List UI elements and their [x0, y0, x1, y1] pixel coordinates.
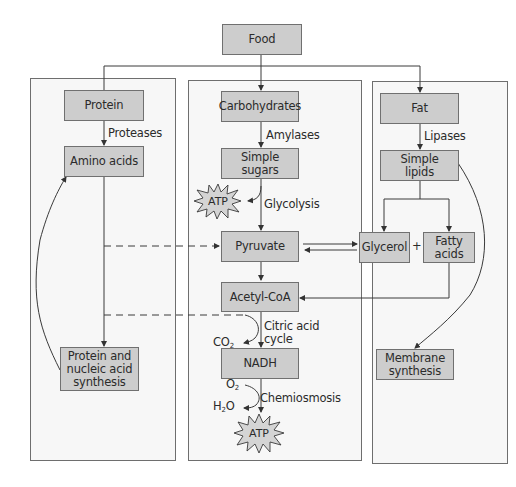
- pyruvate-node: Pyruvate: [221, 231, 299, 262]
- atp-label-top: ATP: [193, 182, 243, 220]
- glycolysis-label: Glycolysis: [264, 198, 319, 211]
- atp-label-bottom: ATP: [233, 412, 285, 454]
- amylases-label: Amylases: [266, 129, 320, 142]
- co2-text: CO: [213, 335, 230, 349]
- o2-subscript: 2: [235, 384, 239, 392]
- lipases-label: Lipases: [424, 130, 466, 143]
- carbohydrates-node: Carbohydrates: [221, 91, 299, 122]
- amino-acids-node: Amino acids: [64, 146, 144, 177]
- glycerol-node: Glycerol: [359, 232, 410, 263]
- fat-node: Fat: [380, 93, 459, 124]
- food-node: Food: [222, 24, 302, 55]
- h2o-o: O: [226, 399, 235, 413]
- fatty-acids-node: Fatty acids: [423, 232, 475, 263]
- proteases-label: Proteases: [108, 127, 162, 140]
- atp-burst-bottom: ATP: [233, 412, 285, 454]
- protein-synthesis-node: Protein and nucleic acid synthesis: [60, 347, 139, 391]
- o2-text: O: [226, 377, 235, 391]
- atp-burst-top: ATP: [193, 182, 243, 220]
- o2-label: O2: [226, 378, 239, 395]
- simple-lipids-node: Simple lipids: [380, 150, 459, 181]
- acetyl-coa-node: Acetyl-CoA: [221, 282, 299, 312]
- plus-sign: +: [412, 240, 421, 253]
- nadh-node: NADH: [221, 348, 299, 379]
- chemiosmosis-label: Chemiosmosis: [260, 392, 341, 405]
- citric-acid-cycle-label: Citric acid cycle: [264, 320, 319, 346]
- h2o-label: H2O: [213, 400, 235, 417]
- simple-sugars-node: Simple sugars: [221, 148, 299, 179]
- protein-node: Protein: [64, 90, 144, 121]
- membrane-synthesis-node: Membrane synthesis: [376, 349, 454, 380]
- metabolism-diagram: Food Protein Proteases Amino acids Prote…: [0, 0, 516, 487]
